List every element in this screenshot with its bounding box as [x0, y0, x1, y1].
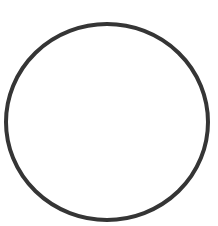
circle-outline	[6, 24, 208, 220]
canvas	[0, 0, 218, 226]
